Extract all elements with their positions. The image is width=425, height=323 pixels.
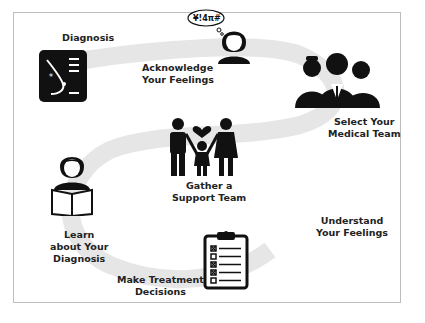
- reading-woman-icon: [50, 150, 94, 216]
- medical-team-icon: [295, 50, 380, 108]
- step-understand-label: Understand Your Feelings: [316, 215, 388, 239]
- step-treatment-label: Make Treatment Decisions: [117, 274, 204, 298]
- family-icon: [166, 116, 238, 176]
- svg-text:*: *: [49, 73, 53, 82]
- step-medical-team-label: Select Your Medical Team: [328, 116, 401, 140]
- upset-woman-icon: ¥!4π#: [186, 8, 250, 64]
- breast-scan-icon: *: [39, 50, 87, 102]
- step-support-team-label: Gather a Support Team: [172, 180, 246, 204]
- clipboard-checklist-icon: [203, 230, 249, 290]
- step-acknowledge-label: Acknowledge Your Feelings: [142, 62, 214, 86]
- step-diagnosis-label: Diagnosis: [62, 32, 114, 44]
- thought-text: ¥!4π#: [193, 14, 221, 23]
- step-learn-label: Learn about Your Diagnosis: [50, 229, 108, 265]
